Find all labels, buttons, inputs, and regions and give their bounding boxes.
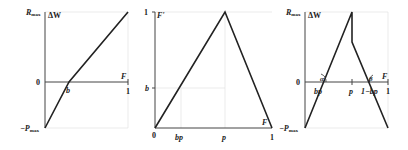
- diagram-canvas: Rmax ΔW 0 −Pmax F b 1 1 F' b 0 bp p 1 F: [0, 0, 408, 150]
- x-p-label: p: [221, 133, 226, 142]
- x-one-label: 1: [270, 133, 274, 142]
- x-b-label: b: [66, 86, 70, 95]
- y-b-label: b: [145, 84, 149, 93]
- delta-w-curve: [45, 12, 128, 128]
- f-prime-curve: [155, 12, 272, 128]
- y-title-label: ΔW: [308, 11, 321, 20]
- y-top-label: 1: [144, 8, 148, 17]
- beta-label: β: [368, 75, 373, 83]
- panel-middle: 1 F' b 0 bp p 1 F: [144, 8, 274, 142]
- y-title-label: F': [156, 11, 165, 20]
- x-title-label: F: [261, 118, 268, 127]
- panel-right: α β Rmax ΔW 0 −Pmax F bp p 1−bp 1: [279, 8, 390, 133]
- y-zero-label: 0: [36, 78, 40, 87]
- x-title-label: F: [120, 72, 127, 81]
- x-p-label: p: [348, 87, 353, 96]
- x-1mbp-label: 1−bp: [361, 87, 378, 96]
- x-one-label: 1: [126, 87, 130, 96]
- x-bp-label: bp: [314, 87, 322, 96]
- panel-left: Rmax ΔW 0 −Pmax F b 1: [20, 8, 130, 133]
- y-zero-label: 0: [152, 131, 156, 140]
- y-bottom-label: −Pmax: [279, 124, 298, 133]
- y-top-label: Rmax: [285, 8, 301, 17]
- y-title-label: ΔW: [48, 11, 61, 20]
- y-bottom-label: −Pmax: [20, 124, 39, 133]
- y-top-label: Rmax: [25, 8, 41, 17]
- y-zero-label: 0: [296, 78, 300, 87]
- delta-w-curve: [305, 12, 388, 128]
- alpha-label: α: [320, 75, 324, 83]
- x-title-label: F: [381, 72, 388, 81]
- x-bp-label: bp: [175, 133, 183, 142]
- x-one-label: 1: [386, 87, 390, 96]
